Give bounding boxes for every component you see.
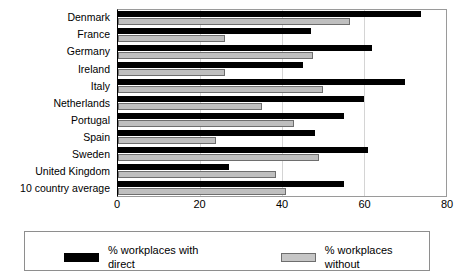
bar-without: [118, 86, 323, 93]
category-label: Portugal: [0, 112, 114, 129]
bar-with-direct: [118, 96, 364, 102]
bar-group: [118, 78, 446, 95]
legend-entry-with-direct: % workplaces with direct: [64, 244, 227, 271]
plot-area: [117, 9, 447, 197]
category-label: Denmark: [0, 9, 114, 26]
bar-with-direct: [118, 113, 344, 119]
legend-label-without: % workplaces without: [325, 244, 429, 271]
value-axis: 020406080: [117, 199, 447, 215]
bar-group: [118, 44, 446, 61]
black-bar-swatch-icon: [64, 253, 99, 262]
bar-without: [118, 18, 350, 25]
bar-without: [118, 69, 225, 76]
gridline: [446, 10, 447, 196]
category-label: 10 country average: [0, 180, 114, 197]
bar-without: [118, 103, 262, 110]
bar-with-direct: [118, 28, 311, 34]
bar-chart-figure: DenmarkFranceGermanyIrelandItalyNetherla…: [0, 0, 454, 222]
gray-bar-swatch-icon: [281, 253, 316, 262]
category-label: Netherlands: [0, 94, 114, 111]
bar-group: [118, 27, 446, 44]
bar-without: [118, 188, 286, 195]
bar-group: [118, 111, 446, 128]
bar-with-direct: [118, 147, 368, 153]
bar-group: [118, 179, 446, 196]
x-tick-label: 60: [358, 199, 370, 210]
bar-with-direct: [118, 164, 229, 170]
bar-without: [118, 52, 313, 59]
bar-with-direct: [118, 62, 303, 68]
bars-layer: [118, 10, 446, 196]
chart-title: [117, 0, 447, 2]
category-label: Italy: [0, 77, 114, 94]
x-tick-label: 40: [276, 199, 288, 210]
bar-without: [118, 154, 319, 161]
bar-group: [118, 61, 446, 78]
category-axis: DenmarkFranceGermanyIrelandItalyNetherla…: [0, 9, 114, 197]
bar-group: [118, 145, 446, 162]
bar-with-direct: [118, 11, 421, 17]
category-label: Sweden: [0, 146, 114, 163]
category-label: France: [0, 26, 114, 43]
x-tick-label: 20: [193, 199, 205, 210]
category-label: Germany: [0, 43, 114, 60]
bar-with-direct: [118, 181, 344, 187]
bar-without: [118, 171, 276, 178]
x-tick-label: 0: [114, 199, 120, 210]
bar-without: [118, 137, 216, 144]
bar-group: [118, 128, 446, 145]
legend-label-with-direct: % workplaces with direct: [108, 244, 227, 271]
chart-legend: % workplaces with direct % workplaces wi…: [24, 231, 430, 271]
category-label: United Kingdom: [0, 163, 114, 180]
bar-with-direct: [118, 45, 372, 51]
bar-with-direct: [118, 130, 315, 136]
bar-group: [118, 162, 446, 179]
bar-group: [118, 95, 446, 112]
category-label: Ireland: [0, 60, 114, 77]
bar-group: [118, 10, 446, 27]
x-tick-label: 80: [441, 199, 453, 210]
legend-entry-without: % workplaces without: [281, 244, 429, 271]
bar-without: [118, 120, 294, 127]
bar-without: [118, 35, 225, 42]
bar-with-direct: [118, 79, 405, 85]
category-label: Spain: [0, 129, 114, 146]
